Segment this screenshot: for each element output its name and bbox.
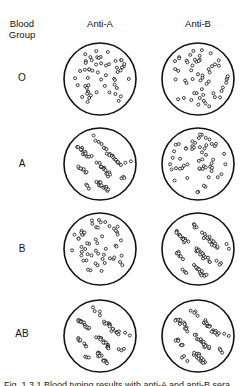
plate-b-anti-a <box>64 213 136 285</box>
plate-o-anti-b <box>162 43 234 115</box>
test-plates <box>0 0 247 386</box>
plate-ab-anti-b <box>162 300 234 372</box>
plate-a-anti-a <box>64 128 136 200</box>
plate-ab-anti-a <box>64 300 136 372</box>
figure-caption: Fig. 1.3.1 Blood typing results with ant… <box>4 380 230 386</box>
plate-b-anti-b <box>162 213 234 285</box>
plate-a-anti-b <box>162 128 234 200</box>
plate-o-anti-a <box>64 43 136 115</box>
